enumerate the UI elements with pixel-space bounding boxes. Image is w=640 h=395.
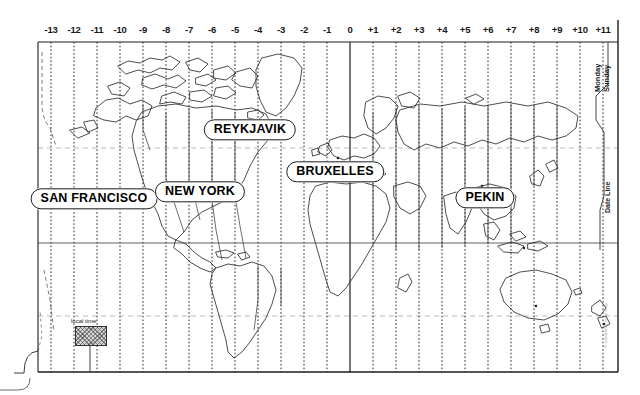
tz-tick-plus10: +10 <box>572 24 588 35</box>
dateline-label-sunday: Sunday <box>602 65 611 92</box>
tz-tick-minus1: -1 <box>323 24 331 35</box>
tz-tick-minus2: -2 <box>300 24 308 35</box>
tz-tick-zero: 0 <box>347 24 352 35</box>
world-time-zone-map: -13 -12 -11 -10 -9 -8 -7 -6 -5 -4 -3 -2 … <box>0 0 640 395</box>
tz-tick-plus6: +6 <box>483 24 493 35</box>
dateline-label: Date Line <box>604 181 611 213</box>
tz-tick-minus9: -9 <box>139 24 147 35</box>
tz-tick-plus3: +3 <box>414 24 424 35</box>
tz-tick-minus8: -8 <box>162 24 170 35</box>
tz-tick-minus5: -5 <box>231 24 239 35</box>
page-curl-artifact <box>0 310 42 390</box>
city-label-san-francisco[interactable]: SAN FRANCISCO <box>31 188 158 209</box>
tz-tick-minus12: -12 <box>67 24 80 35</box>
tz-tick-minus11: -11 <box>91 24 104 35</box>
tz-tick-minus3: -3 <box>277 24 285 35</box>
tz-tick-plus8: +8 <box>529 24 539 35</box>
city-label-bruxelles[interactable]: BRUXELLES <box>286 161 384 182</box>
tz-boundary-dashed-bottom-west <box>44 270 54 332</box>
legend-caption: local time <box>71 318 96 324</box>
tz-tick-plus5: +5 <box>460 24 470 35</box>
tz-tick-plus9: +9 <box>552 24 562 35</box>
tz-tick-plus1: +1 <box>368 24 378 35</box>
city-label-new-york[interactable]: NEW YORK <box>155 181 245 202</box>
tz-tick-minus13: -13 <box>44 24 57 35</box>
tz-tick-plus11: +11 <box>596 24 611 35</box>
city-dots <box>337 157 606 325</box>
city-label-pekin[interactable]: PEKIN <box>455 187 514 208</box>
tz-tick-minus10: -10 <box>113 24 126 35</box>
tz-tick-plus4: +4 <box>437 24 447 35</box>
tz-tick-minus4: -4 <box>254 24 262 35</box>
credit-text: © world time zone map <box>603 303 608 348</box>
tz-tick-plus2: +2 <box>391 24 401 35</box>
tz-tick-minus7: -7 <box>185 24 193 35</box>
dateline-label-monday: Monday <box>593 64 602 92</box>
legend-swatch-local-time <box>75 326 107 346</box>
tz-tick-plus7: +7 <box>506 24 516 35</box>
city-label-reykjavik[interactable]: REYKJAVIK <box>204 119 296 140</box>
tz-boundary-dashed-west <box>42 52 56 146</box>
tz-tick-minus6: -6 <box>208 24 216 35</box>
